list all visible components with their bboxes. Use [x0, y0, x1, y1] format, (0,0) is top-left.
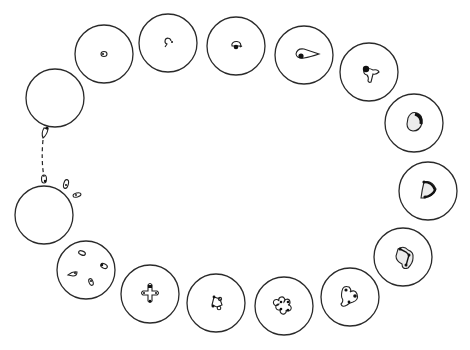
- cell-schizont-6: [121, 265, 179, 323]
- cell-entry: [26, 69, 84, 138]
- cell-schizont-4: [255, 277, 313, 335]
- cell-troph-2: [340, 43, 398, 101]
- cell-schizont-1: [399, 162, 457, 220]
- life-cycle-diagram: Life cycle of an intracellular blood par…: [0, 0, 470, 350]
- cell-merozoites: [57, 241, 115, 299]
- cell-release: [15, 175, 81, 244]
- cell-ring-3: [207, 17, 265, 75]
- cell-ring-2: [139, 14, 197, 72]
- cell-ring-1: [75, 25, 133, 83]
- cell-schizont-5: [187, 274, 245, 332]
- merozoite-icon: [73, 192, 82, 198]
- cell-schizont-2: [374, 228, 432, 286]
- cell-schizont-3: [321, 268, 379, 326]
- cell-troph-1: [275, 26, 333, 84]
- cell-troph-3: [385, 94, 443, 152]
- dashed-connector: [42, 140, 44, 177]
- diagram-canvas: [0, 0, 470, 350]
